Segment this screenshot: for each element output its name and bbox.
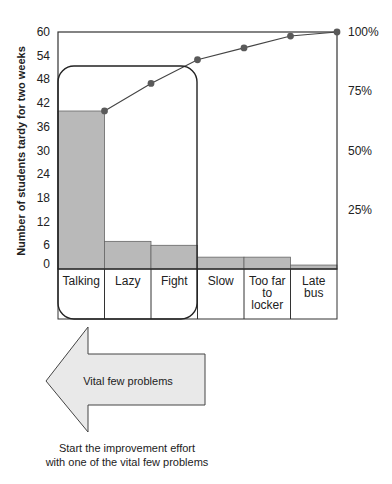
y-tick-label: 24 — [37, 167, 51, 181]
y-tick-label: 0 — [43, 257, 50, 271]
caption-line-1: Start the improvement effort — [59, 442, 195, 454]
bar — [198, 257, 245, 269]
bar — [58, 111, 105, 269]
cumulative-polyline — [105, 32, 338, 111]
category-label: Talking — [63, 274, 100, 288]
category-label: Lazy — [115, 274, 140, 288]
category-label: Slow — [208, 274, 234, 288]
category-label: bus — [304, 286, 323, 300]
y-tick-label: 30 — [37, 144, 51, 158]
y-tick-label: 18 — [37, 191, 51, 205]
y-axis-label: Number of students tardy for two weeks — [15, 46, 27, 256]
y2-tick-label: 75% — [348, 84, 372, 98]
arrow-label: Vital few problems — [83, 375, 173, 387]
category-label: Fight — [161, 274, 188, 288]
cumulative-marker — [101, 108, 108, 115]
y-tick-label: 36 — [37, 120, 51, 134]
cumulative-marker — [241, 44, 248, 51]
y2-tick-label: 25% — [348, 203, 372, 217]
y-tick-label: 60 — [37, 25, 51, 39]
caption-line-2: with one of the vital few problems — [45, 456, 209, 468]
y2-tick-label: 50% — [348, 144, 372, 158]
cumulative-marker — [194, 56, 201, 63]
y-tick-label: 42 — [37, 96, 51, 110]
y-tick-label: 48 — [37, 72, 51, 86]
pareto-chart: Number of students tardy for two weeks 0… — [0, 0, 392, 484]
y-tick-label: 12 — [37, 215, 51, 229]
cumulative-marker — [334, 29, 341, 36]
y-tick-label: 6 — [43, 238, 50, 252]
y2-tick-label: 100% — [348, 25, 379, 39]
category-label: locker — [251, 298, 283, 312]
y-axis-ticks: 06121824303642485460 — [37, 25, 51, 271]
bar — [105, 241, 152, 269]
cumulative-marker — [148, 80, 155, 87]
cumulative-line — [101, 29, 340, 115]
bar — [151, 245, 198, 269]
bar — [244, 257, 291, 269]
y2-axis-ticks: 25%50%75%100% — [348, 25, 379, 217]
cumulative-marker — [287, 33, 294, 40]
y-tick-label: 54 — [37, 49, 51, 63]
